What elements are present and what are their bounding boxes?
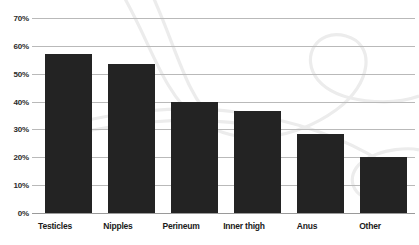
y-axis-tick-40: 40% — [14, 97, 29, 106]
gridline-60 — [32, 46, 415, 47]
y-axis-tick-20: 20% — [14, 153, 29, 162]
y-axis-tick-60: 60% — [14, 41, 29, 50]
bar-perineum — [171, 102, 218, 213]
plot-area — [32, 18, 415, 213]
y-axis-labels: 0% 10% 20% 30% 40% 50% 60% 70% — [0, 0, 32, 245]
x-axis-baseline — [32, 213, 415, 214]
y-axis-tick-70: 70% — [14, 14, 29, 23]
bar-inner-thigh — [234, 111, 281, 213]
y-axis-tick-30: 30% — [14, 125, 29, 134]
bar-other — [360, 157, 407, 213]
bar-chart: 0% 10% 20% 30% 40% 50% 60% 70% Testicles… — [0, 0, 419, 245]
x-axis-label-other: Other — [323, 221, 417, 231]
y-axis-tick-50: 50% — [14, 69, 29, 78]
y-axis-tick-10: 10% — [14, 181, 29, 190]
x-axis-labels: Testicles Nipples Perineum Inner thigh A… — [0, 216, 419, 245]
gridline-70 — [32, 18, 415, 19]
bar-anus — [297, 134, 344, 213]
bar-nipples — [108, 64, 155, 213]
bar-testicles — [45, 54, 92, 213]
